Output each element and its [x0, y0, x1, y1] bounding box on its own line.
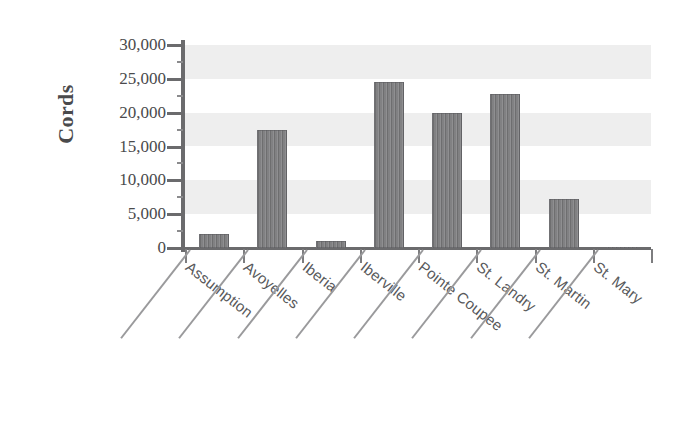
y-axis-minor-tick: [177, 61, 183, 63]
category-name: St. Mary: [590, 258, 646, 307]
y-axis-minor-tick: [177, 129, 183, 131]
grid-band: [185, 180, 651, 214]
bar: [490, 94, 520, 248]
grid-band: [185, 45, 651, 79]
bar: [199, 234, 229, 248]
bar: [607, 247, 637, 249]
bar-chart: Cords 05,00010,00015,00020,00025,00030,0…: [0, 0, 698, 427]
y-axis-tick-label: 5,000: [74, 205, 166, 222]
y-axis-tick-labels: 05,00010,00015,00020,00025,00030,000: [68, 0, 166, 260]
y-axis-tick-label: 20,000: [74, 104, 166, 121]
y-axis-tick-label: 30,000: [74, 36, 166, 53]
x-axis-tick: [651, 249, 653, 263]
grid-band: [185, 113, 651, 147]
x-axis-line: [181, 247, 651, 250]
y-axis-minor-tick: [177, 162, 183, 164]
y-axis-tick: [167, 44, 181, 47]
y-axis-tick-label: 25,000: [74, 70, 166, 87]
y-axis-line: [181, 40, 185, 252]
y-axis-tick: [167, 112, 181, 115]
y-axis-tick: [167, 213, 181, 216]
label-leader-line: [120, 249, 191, 338]
y-axis-tick-label: 10,000: [74, 171, 166, 188]
bar: [257, 130, 287, 248]
bar: [549, 199, 579, 248]
y-axis-minor-tick: [177, 95, 183, 97]
bar: [374, 82, 404, 248]
y-axis-tick: [167, 247, 181, 250]
y-axis-tick: [167, 179, 181, 182]
bar: [432, 113, 462, 248]
plot-area: [185, 44, 651, 249]
bar: [316, 241, 346, 248]
y-axis-minor-tick: [177, 196, 183, 198]
y-axis-tick: [167, 146, 181, 149]
y-axis-tick: [167, 78, 181, 81]
y-axis-minor-tick: [177, 230, 183, 232]
y-axis-tick-label: 15,000: [74, 138, 166, 155]
y-axis-tick-label: 0: [74, 239, 166, 256]
